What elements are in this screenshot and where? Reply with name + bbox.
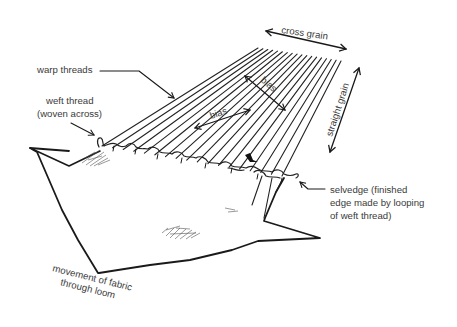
cut-mark-icon [245,153,258,162]
fabric-grain-diagram: cross grain straight grain bias bias war… [0,0,457,327]
fabric-texture-center [162,208,238,239]
fabric-outline [30,148,320,273]
warp-thread-extension [252,176,262,205]
cross-grain-indicator: cross grain [266,24,346,49]
weft-ticks [113,146,282,183]
weft-thread-leader [71,123,94,135]
selvedge-label-line3: of weft thread) [330,210,391,221]
warp-thread [176,53,292,158]
warp-thread [261,60,331,173]
selvedge-leader [300,182,325,189]
selvedge-label-line2: edge made by looping [330,197,424,208]
warp-threads-leader [100,71,174,98]
straight-grain-indicator: straight grain [323,68,359,152]
weft-thread-callout: weft thread (woven across) [37,95,102,135]
warp-thread [123,50,268,150]
weft-thread-label-line1: weft thread [45,95,93,106]
cross-grain-label: cross grain [281,24,329,41]
movement-callout: movement of fabric through loom [52,262,134,300]
warp-thread [187,54,297,160]
warp-thread [240,58,322,169]
fabric-cloth [30,148,320,273]
warp-threads [102,48,341,218]
warp-thread [113,49,263,148]
selvedge-callout: selvedge (finished edge made by looping … [300,182,424,221]
weft-thread-label-line2: (woven across) [37,108,102,119]
warp-threads-label: warp threads [36,64,93,75]
selvedge-label-line1: selvedge (finished [330,184,407,195]
warp-thread [144,51,277,153]
warp-thread [134,50,273,151]
warp-thread [271,60,336,174]
warp-threads-callout: warp threads [36,64,174,98]
